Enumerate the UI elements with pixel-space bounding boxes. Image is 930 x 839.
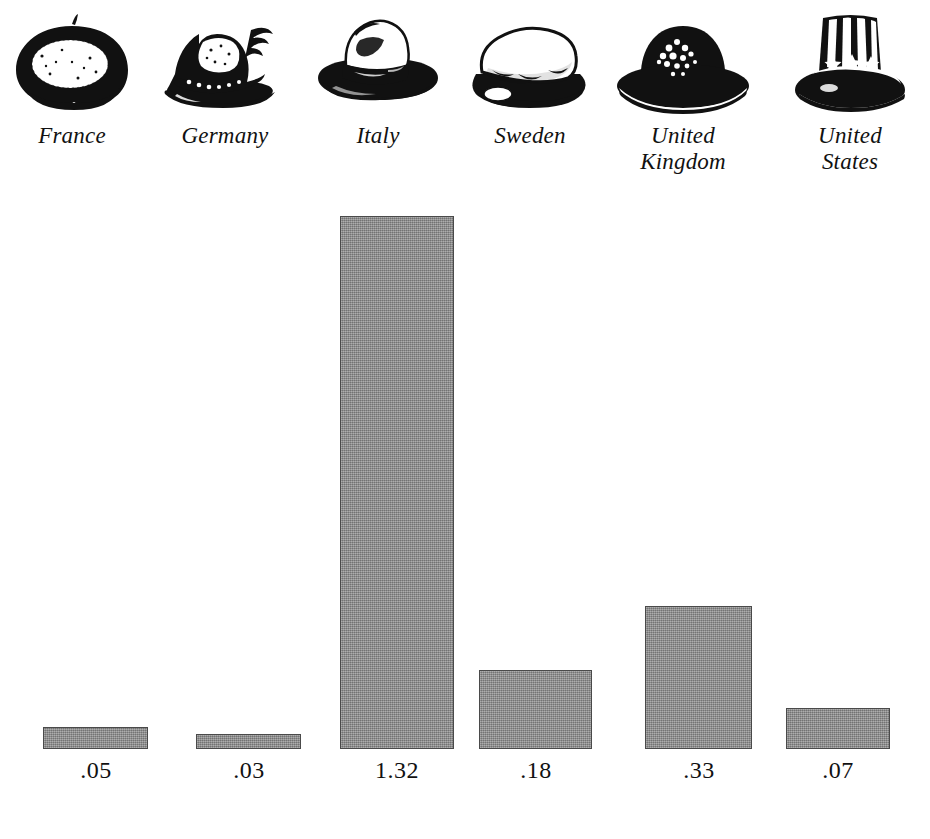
bar-france	[43, 727, 148, 749]
value-label-sweden: .18	[461, 757, 611, 784]
value-label-italy: 1.32	[322, 757, 472, 784]
bar-united-states	[786, 708, 890, 749]
plot-area: .05 .03 1.32 .18 .33 .07	[0, 0, 930, 839]
bar-italy	[340, 216, 454, 749]
value-label-germany: .03	[174, 757, 324, 784]
pictorial-bar-chart: France Germany	[0, 0, 930, 839]
bar-sweden	[479, 670, 592, 749]
value-label-united-kingdom: .33	[624, 757, 774, 784]
value-label-united-states: .07	[763, 757, 913, 784]
bar-united-kingdom	[645, 606, 752, 749]
value-label-france: .05	[21, 757, 171, 784]
bar-germany	[196, 734, 301, 749]
